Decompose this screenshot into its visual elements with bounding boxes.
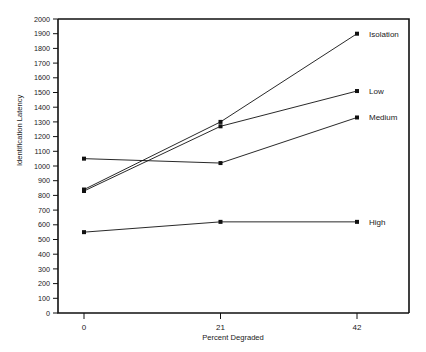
data-point-marker — [219, 161, 223, 165]
y-tick-label: 1200 — [34, 132, 50, 141]
series-low: Low — [82, 87, 384, 193]
series-line-isolation — [84, 34, 357, 190]
data-point-marker — [355, 115, 359, 119]
x-tick-label: 0 — [82, 323, 87, 332]
chart-container: 0100200300400500600700800900100011001200… — [0, 0, 426, 352]
y-tick-label: 300 — [38, 265, 50, 274]
y-tick-label: 1800 — [34, 44, 50, 53]
y-tick-label: 1600 — [34, 73, 50, 82]
y-tick-label: 1100 — [35, 147, 50, 156]
y-tick-label: 100 — [38, 294, 50, 303]
y-tick-label: 400 — [38, 250, 50, 259]
series-isolation: Isolation — [82, 30, 399, 192]
y-tick-label: 1700 — [34, 59, 50, 68]
y-tick-label: 1400 — [34, 103, 50, 112]
data-point-marker — [355, 32, 359, 36]
y-tick-label: 800 — [38, 191, 50, 200]
plot-frame — [58, 19, 409, 313]
series-label-high: High — [369, 218, 385, 227]
y-tick-label: 2000 — [34, 15, 50, 24]
series-high: High — [82, 218, 385, 234]
y-tick-label: 200 — [38, 279, 50, 288]
data-point-marker — [82, 230, 86, 234]
y-axis-title: Identification Latency — [15, 94, 24, 166]
y-tick-label: 1500 — [34, 88, 50, 97]
series-line-low — [84, 91, 357, 191]
axis-top-right — [58, 19, 409, 313]
data-point-marker — [355, 220, 359, 224]
data-point-marker — [82, 157, 86, 161]
axis-left-bottom — [58, 19, 409, 313]
series-label-medium: Medium — [369, 113, 398, 122]
y-tick-label: 1300 — [34, 118, 50, 127]
x-tick-label: 21 — [216, 323, 225, 332]
y-tick-label: 600 — [38, 220, 50, 229]
data-point-marker — [219, 120, 223, 124]
data-point-marker — [355, 89, 359, 93]
x-tick-label: 42 — [353, 323, 362, 332]
y-tick-label: 900 — [38, 176, 50, 185]
series-layer: IsolationLowMediumHigh — [82, 30, 399, 234]
data-point-marker — [219, 124, 223, 128]
data-point-marker — [219, 220, 223, 224]
y-tick-label: 1900 — [34, 29, 50, 38]
series-label-isolation: Isolation — [369, 30, 399, 39]
y-axis-ticks: 0100200300400500600700800900100011001200… — [34, 15, 58, 318]
y-tick-label: 0 — [46, 309, 50, 318]
line-chart-svg: 0100200300400500600700800900100011001200… — [0, 0, 426, 352]
y-tick-label: 1000 — [34, 162, 50, 171]
x-axis-ticks: 02142 — [82, 313, 362, 332]
y-tick-label: 500 — [38, 235, 50, 244]
y-tick-label: 700 — [38, 206, 50, 215]
x-axis-title: Percent Degraded — [202, 333, 264, 342]
series-label-low: Low — [369, 87, 384, 96]
data-point-marker — [82, 189, 86, 193]
